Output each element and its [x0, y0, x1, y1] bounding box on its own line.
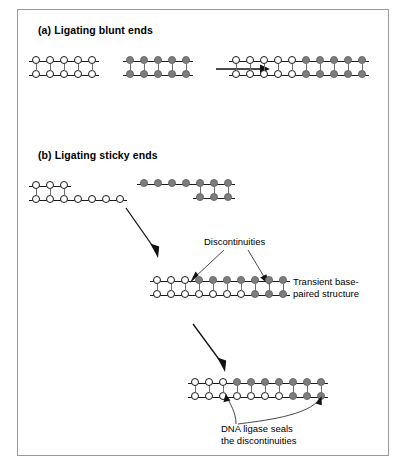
nucleotide-gray [224, 179, 232, 187]
nucleotide-white [153, 276, 161, 284]
blunt-gray-fragment [130, 55, 200, 81]
nucleotide-white [191, 378, 199, 386]
nucleotide-gray [317, 378, 325, 386]
base-pair-bond [199, 284, 200, 291]
base-pair-bond [172, 64, 173, 71]
nucleotide-gray [247, 378, 255, 386]
nucleotide-white [167, 276, 175, 284]
sticky-white-fragment [36, 180, 134, 206]
nucleotide-white [246, 70, 254, 78]
nucleotide-gray [279, 290, 287, 298]
nucleotide-white [74, 195, 82, 203]
nucleotide-white [232, 56, 240, 64]
nucleotide-gray [210, 179, 218, 187]
nucleotide-white [288, 70, 296, 78]
base-pair-bond [292, 64, 293, 71]
nucleotide-white [102, 195, 110, 203]
nucleotide-white [32, 70, 40, 78]
base-pair-bond [321, 386, 322, 393]
nucleotide-white [88, 56, 96, 64]
nucleotide-gray [224, 193, 232, 201]
nucleotide-white [223, 290, 231, 298]
nucleotide-white [60, 70, 68, 78]
base-pair-bond [265, 386, 266, 393]
nucleotide-white [246, 56, 254, 64]
nucleotide-white [32, 56, 40, 64]
panel-a-heading: (a) Ligating blunt ends [38, 24, 153, 36]
nucleotide-gray [279, 276, 287, 284]
base-pair-bond [228, 187, 229, 194]
reaction-arrow-b2 [191, 322, 239, 376]
nucleotide-gray [223, 276, 231, 284]
nucleotide-white [205, 392, 213, 400]
nucleotide-white [167, 290, 175, 298]
base-pair-bond [144, 64, 145, 71]
base-pair-bond [36, 64, 37, 71]
base-pair-bond [227, 284, 228, 291]
base-pair-bond [209, 386, 210, 393]
base-pair-bond [278, 64, 279, 71]
base-pair-bond [293, 386, 294, 393]
nucleotide-white [60, 195, 68, 203]
nucleotide-gray [344, 70, 352, 78]
nucleotide-gray [154, 179, 162, 187]
base-pair-bond [50, 189, 51, 196]
ligase-caption: DNA ligase seals the discontinuities [221, 423, 297, 446]
base-pair-bond [200, 187, 201, 194]
ligase-leader-lines [214, 394, 338, 426]
nucleotide-gray [261, 378, 269, 386]
nucleotide-white [32, 181, 40, 189]
nucleotide-gray [209, 276, 217, 284]
base-pair-bond [250, 64, 251, 71]
nucleotide-white [274, 56, 282, 64]
base-pair-bond [157, 284, 158, 291]
panel-b-heading: (b) Ligating sticky ends [38, 149, 158, 161]
nucleotide-white [288, 56, 296, 64]
base-pair-bond [158, 64, 159, 71]
nucleotide-white [153, 290, 161, 298]
base-pair-bond [334, 64, 335, 71]
nucleotide-gray [210, 193, 218, 201]
base-pair-bond [348, 64, 349, 71]
transient-structure-label: Transient base- paired structure [293, 276, 359, 299]
nucleotide-white [116, 195, 124, 203]
base-pair-bond [306, 64, 307, 71]
base-pair-bond [186, 64, 187, 71]
nucleotide-white [88, 70, 96, 78]
base-pair-bond [214, 187, 215, 194]
nucleotide-gray [168, 179, 176, 187]
nucleotide-white [195, 290, 203, 298]
nucleotide-white [32, 195, 40, 203]
base-pair-bond [64, 64, 65, 71]
nucleotide-white [274, 70, 282, 78]
nucleotide-gray [196, 193, 204, 201]
base-pair-bond [223, 386, 224, 393]
base-pair-bond [237, 386, 238, 393]
nucleotide-gray [195, 276, 203, 284]
base-pair-bond [130, 64, 131, 71]
nucleotide-gray [233, 378, 241, 386]
nucleotide-white [46, 70, 54, 78]
nucleotide-white [232, 70, 240, 78]
base-pair-bond [241, 284, 242, 291]
base-pair-bond [255, 284, 256, 291]
base-pair-bond [195, 386, 196, 393]
nucleotide-white [60, 56, 68, 64]
nucleotide-gray [330, 56, 338, 64]
nucleotide-gray [289, 378, 297, 386]
nucleotide-gray [168, 56, 176, 64]
base-pair-bond [269, 284, 270, 291]
nucleotide-white [260, 56, 268, 64]
nucleotide-white [205, 378, 213, 386]
nucleotide-white [46, 181, 54, 189]
nucleotide-white [46, 56, 54, 64]
base-pair-bond [171, 284, 172, 291]
nucleotide-gray [140, 179, 148, 187]
nucleotide-gray [182, 179, 190, 187]
nucleotide-gray [358, 56, 366, 64]
nucleotide-white [181, 276, 189, 284]
base-pair-bond [64, 189, 65, 196]
base-pair-bond [362, 64, 363, 71]
nucleotide-gray [182, 56, 190, 64]
nucleotide-gray [126, 56, 134, 64]
